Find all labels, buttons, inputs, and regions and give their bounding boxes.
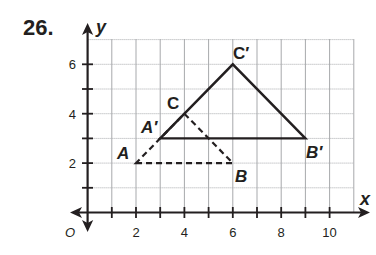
- x-axis-label: x: [359, 189, 371, 209]
- y-tick-label-2: 2: [69, 156, 76, 171]
- y-axis-label: y: [95, 17, 107, 37]
- y-axis: [82, 23, 93, 232]
- coordinate-graph: 2 4 6 8 10 2 4 6 x y O A B C A′ B′ C′: [0, 0, 376, 255]
- x-tick-label-6: 6: [229, 225, 236, 240]
- axis-ticks: [82, 64, 330, 218]
- y-tick-label-4: 4: [69, 107, 76, 122]
- vertex-label-a: A: [116, 144, 129, 163]
- vertex-label-c-prime: C′: [233, 44, 249, 63]
- x-axis: [70, 207, 370, 218]
- y-tick-label-6: 6: [69, 57, 76, 72]
- vertex-label-b: B: [235, 167, 247, 186]
- origin-label: O: [65, 225, 75, 240]
- x-tick-label-4: 4: [181, 225, 188, 240]
- vertex-label-a-prime: A′: [140, 118, 158, 137]
- vertex-label-b-prime: B′: [306, 143, 323, 162]
- x-tick-label-8: 8: [278, 225, 285, 240]
- x-tick-label-2: 2: [132, 225, 139, 240]
- grid-lines: [88, 39, 354, 213]
- x-tick-label-10: 10: [322, 225, 336, 240]
- vertex-label-c: C: [167, 94, 179, 113]
